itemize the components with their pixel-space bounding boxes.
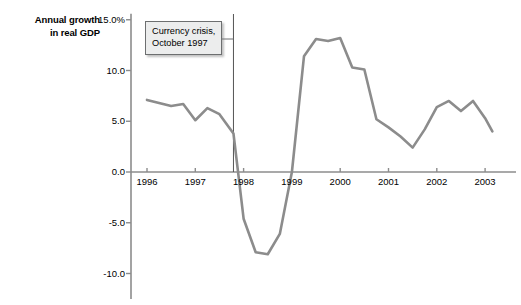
chart-x-tick-label: 1998 [224, 177, 264, 187]
chart-y-tick-label: -5.0 [65, 218, 125, 228]
chart-x-tick-label: 1996 [127, 177, 167, 187]
chart-annotation-line-2: October 1997 [152, 38, 215, 50]
chart-y-tick-label: 5.0 [65, 116, 125, 126]
chart-x-tick-label: 2001 [369, 177, 409, 187]
chart-x-tick-label: 1999 [272, 177, 312, 187]
chart-x-tick-label: 2000 [320, 177, 360, 187]
chart-annotation-line-1: Currency crisis, [152, 26, 215, 38]
chart-x-tick-label: 2002 [417, 177, 457, 187]
chart-axis-title-line-2: in real GDP [8, 27, 100, 40]
chart-y-tick-label: 10.0 [65, 66, 125, 76]
chart-x-tick-label: 2003 [465, 177, 505, 187]
chart-x-tick-label: 1997 [175, 177, 215, 187]
chart-series-line [147, 38, 492, 254]
chart-y-tick-label: 15.0% [65, 15, 125, 25]
chart-plot-area [0, 0, 521, 305]
chart-figure: Annual growth in real GDP 15.0%10.05.00.… [0, 0, 521, 305]
chart-annotation-callout: Currency crisis, October 1997 [145, 21, 222, 55]
chart-y-tick-label: -10.0 [65, 269, 125, 279]
chart-y-tick-label: 0.0 [65, 167, 125, 177]
